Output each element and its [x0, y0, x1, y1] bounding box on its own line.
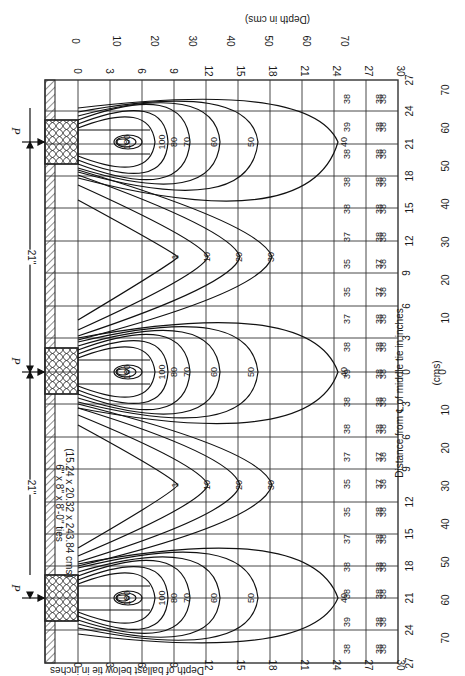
contour-label-30: 30	[266, 480, 276, 490]
depth-tick-top-21: 21	[299, 65, 309, 76]
contour-label-80: 80	[169, 367, 179, 377]
distance-tick-10: 3	[402, 401, 412, 407]
depth-tick-top-27: 27	[363, 65, 373, 76]
distance-tick-6: 9	[402, 270, 412, 276]
cell-value: 38	[342, 176, 352, 186]
cell-value: 37	[342, 451, 352, 461]
contour-label-40: 40	[339, 137, 349, 147]
distance-tick-11: 6	[402, 434, 412, 440]
contour-label-50: 50	[246, 367, 256, 377]
distance-tick-9: 0	[402, 369, 412, 375]
depth-tick-top-0: 0	[72, 68, 82, 74]
contour-label-40: 40	[339, 367, 349, 377]
distance-tick-3: 18	[405, 170, 415, 181]
depth-cm-tick-10: 10	[111, 35, 121, 46]
distance-tick-13: 12	[405, 496, 415, 507]
contour-label-50: 50	[246, 137, 256, 147]
cell-value: 38	[378, 149, 388, 159]
depth-tick-bottom-0: 0	[72, 662, 82, 668]
contour-label-100: 100	[157, 134, 167, 149]
cell-value: 38	[378, 314, 388, 324]
contour-label-80: 80	[169, 593, 179, 603]
depth-tick-bottom-9: 9	[168, 662, 178, 668]
cell-value: 38	[342, 561, 352, 571]
tie-middle	[45, 348, 78, 394]
cell-value: 39	[342, 616, 352, 626]
depth-cm-tick-30: 30	[187, 35, 197, 46]
cell-value: 38	[378, 479, 388, 489]
distance-tick-12: 9	[402, 466, 412, 472]
tie-top	[45, 120, 78, 164]
cell-value: 38	[342, 94, 352, 104]
spacing-label-1: 21"	[26, 250, 36, 265]
cell-value: 38	[378, 94, 388, 104]
load-label-middle: P	[11, 357, 21, 364]
depth-tick-bottom-3: 3	[104, 662, 114, 668]
depth-cm-tick-40: 40	[225, 35, 235, 46]
distance-tick-0: 27	[405, 74, 415, 85]
cell-value: 38	[342, 341, 352, 351]
contour-label-100: 100	[157, 364, 167, 379]
cell-value: 38	[378, 424, 388, 434]
contour-label-40: 40	[339, 593, 349, 603]
cell-value: 37	[342, 534, 352, 544]
load-arrows	[22, 108, 44, 601]
depth-tick-bottom-6: 6	[136, 662, 146, 668]
contour-label-100: 100	[157, 590, 167, 605]
depth-cm-tick-70: 70	[339, 35, 349, 46]
distance-tick-5: 12	[405, 235, 415, 246]
contour-label-60: 60	[209, 367, 219, 377]
cell-value: 38	[378, 396, 388, 406]
depth-cm-tick-20: 20	[149, 35, 159, 46]
contour-label-20: 20	[234, 480, 244, 490]
cell-value: 38	[378, 286, 388, 296]
distance-cm-tick-8: 10	[441, 404, 451, 415]
distance-tick-7: 6	[402, 303, 412, 309]
cell-value: 38	[378, 176, 388, 186]
contour-label-60: 60	[209, 593, 219, 603]
contour-label-50: 50	[246, 593, 256, 603]
cell-value: 38	[378, 121, 388, 131]
distance-tick-8: 3	[402, 335, 412, 341]
cell-value: 38	[378, 534, 388, 544]
contour-label-180: 180	[122, 364, 132, 379]
cell-value: 35	[342, 259, 352, 269]
cell-value: 38	[378, 259, 388, 269]
cell-value: 38	[378, 589, 388, 599]
depth-cm-tick-60: 60	[301, 35, 311, 46]
distance-tick-2: 21	[405, 138, 415, 149]
cell-value: 38	[342, 424, 352, 434]
contour-label-20: 20	[234, 252, 244, 262]
contour-label-70: 70	[182, 137, 192, 147]
distance-cm-tick-9: 20	[441, 442, 451, 453]
depth-cm-tick-0: 0	[70, 38, 80, 44]
distance-tick-15: 18	[405, 560, 415, 571]
distance-tick-18: 27	[405, 657, 415, 668]
tie-label-line2: (15.24 x 20.32 x 243.84 cms)	[64, 448, 74, 578]
distance-cm-tick-14: 70	[441, 632, 451, 643]
contour-label-70: 70	[182, 593, 192, 603]
contour-label-1: 1	[170, 254, 180, 259]
distance-cm-tick-11: 40	[441, 518, 451, 529]
depth-tick-top-12: 12	[203, 65, 213, 76]
distance-axis-title-inches: Distance from ℄ of middle tie in inches	[395, 308, 405, 477]
cell-value: 37	[342, 231, 352, 241]
spacing-label-2: 21"	[26, 480, 36, 495]
depth-tick-top-15: 15	[235, 65, 245, 76]
distance-cm-tick-12: 50	[441, 556, 451, 567]
cell-value: 38	[378, 451, 388, 461]
depth-tick-top-3: 3	[104, 68, 114, 74]
depth-axis-title-cms: (Depth in cms)	[245, 14, 310, 24]
contour-label-10: 10	[202, 252, 212, 262]
depth-tick-bottom-21: 21	[299, 659, 309, 670]
distance-cm-tick-4: 30	[441, 236, 451, 247]
distance-tick-4: 15	[405, 202, 415, 213]
cell-value: 35	[342, 479, 352, 489]
load-label-bottom: P	[11, 584, 21, 591]
distance-cm-tick-1: 60	[441, 122, 451, 133]
cell-value: 37	[342, 314, 352, 324]
depth-tick-top-18: 18	[267, 65, 277, 76]
cell-value: 38	[378, 644, 388, 654]
contour-label-1: 1	[170, 482, 180, 487]
cell-value: 38	[342, 644, 352, 654]
